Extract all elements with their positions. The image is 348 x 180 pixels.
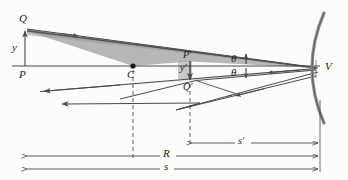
figure-canvas: Q y P C P′ y′ Q′ θ θ V s′ R s — [0, 0, 348, 180]
reflected-ray-lower — [196, 70, 316, 81]
label-center-of-curvature-C: C — [127, 68, 134, 80]
label-object-height-y: y — [12, 41, 17, 53]
label-angle-theta-lower: θ — [231, 66, 236, 78]
label-object-point-Q: Q — [19, 12, 27, 24]
lower-ray-joint — [176, 103, 200, 110]
label-image-point-Q-prime: Q′ — [183, 81, 192, 92]
label-dimension-s: s — [164, 160, 168, 172]
ray-crossing-lower-right — [196, 81, 240, 96]
shaded-ray-bundle — [27, 29, 316, 91]
lower-left-ray-arrow — [62, 103, 200, 104]
label-image-height-y-prime: y′ — [180, 62, 187, 73]
ray-diagram-svg — [0, 0, 348, 180]
label-axis-point-P: P — [19, 68, 26, 80]
label-mirror-vertex-V: V — [325, 60, 332, 72]
label-image-axis-point-P-prime: P′ — [183, 49, 191, 60]
label-dimension-s-prime: s′ — [238, 135, 244, 146]
label-dimension-R: R — [163, 147, 170, 159]
reflected-ray-arrow-left — [44, 85, 120, 91]
label-angle-theta-upper: θ — [231, 52, 236, 64]
